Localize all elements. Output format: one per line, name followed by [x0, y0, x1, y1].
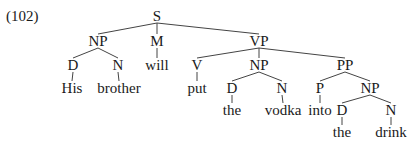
tree-node-the2: the — [333, 125, 351, 140]
tree-node-his: His — [62, 81, 83, 96]
tree-node-n1: N — [113, 58, 124, 73]
tree-node-np2: NP — [249, 58, 268, 73]
tree-node-v: V — [192, 58, 203, 73]
tree-node-m: M — [150, 34, 163, 49]
tree-node-the1: the — [223, 103, 241, 118]
tree-node-put: put — [187, 81, 206, 96]
tree-node-p: P — [316, 81, 324, 96]
tree-node-pp: PP — [337, 58, 354, 73]
tree-node-vp: VP — [249, 34, 268, 49]
tree-node-into: into — [308, 103, 331, 118]
tree-node-will: will — [145, 58, 168, 73]
tree-edge — [259, 48, 345, 58]
tree-node-d3: D — [337, 103, 348, 118]
tree-node-d1: D — [68, 58, 79, 73]
tree-node-n2: N — [277, 81, 288, 96]
tree-node-drink: drink — [375, 125, 407, 140]
tree-node-brother: brother — [97, 81, 140, 96]
syntax-tree-diagram: (102) SNPMVPDNwillVNPPPHisbrotherputDNPN… — [0, 0, 411, 150]
tree-node-vodka: vodka — [265, 103, 302, 118]
tree-node-np1: NP — [88, 34, 107, 49]
tree-edge — [157, 23, 259, 34]
tree-node-np3: NP — [360, 81, 379, 96]
tree-node-s: S — [153, 9, 161, 24]
tree-node-d2: D — [227, 81, 238, 96]
tree-node-n3: N — [386, 103, 397, 118]
